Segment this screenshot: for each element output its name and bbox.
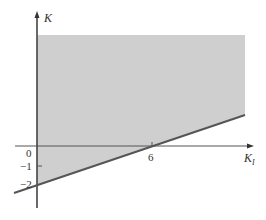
shaded-region [37, 35, 245, 185]
x-axis-label: KI [243, 151, 255, 167]
y-tick-label-minus2: −2 [20, 178, 32, 190]
stability-region-diagram: K KI 6 0 −1 −2 [0, 0, 266, 220]
x-axis-arrow-icon [247, 144, 254, 149]
y-axis-arrow-icon [35, 11, 40, 18]
y-axis-label: K [43, 11, 53, 25]
y-tick-label-0: 0 [26, 147, 32, 159]
y-tick-label-minus1: −1 [20, 160, 32, 172]
x-tick-label-6: 6 [148, 151, 154, 163]
